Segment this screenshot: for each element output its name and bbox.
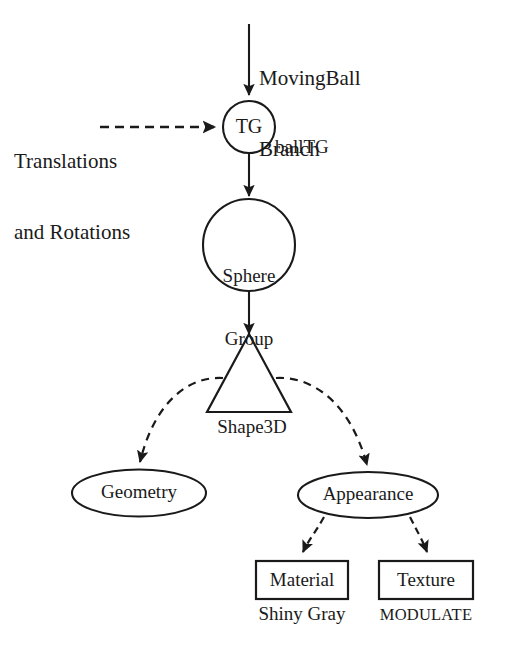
edge-appearance-to-material (303, 517, 324, 552)
sphere-group-label-line1: Sphere (199, 265, 299, 286)
material-caption-label: Shiny Gray (246, 603, 358, 624)
rotations-label-line2: and Rotations (14, 221, 130, 245)
node-tg-label: TG (219, 115, 279, 137)
translations-rotations-label: Translations and Rotations (14, 103, 130, 268)
node-material-label: Material (256, 569, 348, 590)
node-texture-label: Texture (379, 569, 473, 590)
node-tg-side-label: ballTG (275, 136, 329, 157)
node-shape3d-label: Shape3D (196, 416, 308, 437)
node-geometry-label: Geometry (79, 481, 199, 502)
movingball-branch-label-line1: MovingBall (259, 67, 361, 91)
movingball-branch-label: MovingBall Branch (259, 20, 361, 185)
node-appearance-label: Appearance (303, 483, 433, 504)
node-sphere-group-label: Sphere Group (199, 222, 299, 371)
translations-label-line1: Translations (14, 150, 130, 174)
texture-caption-label: MODULATE (369, 606, 483, 624)
edge-appearance-to-texture (410, 517, 427, 552)
sphere-group-label-line2: Group (199, 328, 299, 349)
